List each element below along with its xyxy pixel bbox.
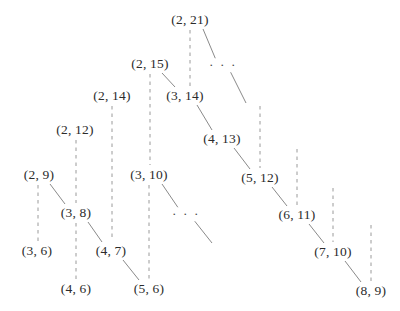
solid-edge (309, 224, 324, 243)
node-n4_6: (4, 6) (60, 282, 92, 296)
solid-edge (197, 105, 212, 130)
node-n8_9: (8, 9) (355, 284, 387, 298)
node-n4_13: (4, 13) (202, 132, 241, 146)
solid-edge (203, 29, 216, 60)
node-n5_6: (5, 6) (133, 282, 165, 296)
solid-edge (88, 222, 102, 242)
solid-edge (345, 261, 361, 282)
ellipsis-e_top: · · · (207, 58, 239, 72)
node-n2_12: (2, 12) (55, 123, 94, 137)
node-n3_8: (3, 8) (60, 206, 92, 220)
node-n5_12: (5, 12) (240, 171, 279, 185)
tree-diagram: (2, 21)(2, 15)(3, 14)(2, 14)(4, 13)(2, 1… (0, 0, 400, 311)
node-n4_7: (4, 7) (95, 244, 127, 258)
node-n3_6: (3, 6) (21, 244, 53, 258)
node-n6_11: (6, 11) (278, 208, 317, 222)
solid-edge (230, 71, 246, 103)
node-n2_14: (2, 14) (92, 89, 131, 103)
solid-edge (193, 219, 212, 243)
solid-edge (162, 73, 175, 87)
solid-edge (162, 184, 179, 209)
node-n3_10: (3, 10) (129, 168, 168, 182)
node-n3_14: (3, 14) (165, 89, 204, 103)
node-n2_9: (2, 9) (23, 168, 55, 182)
solid-edge (50, 184, 65, 204)
edge-layer (0, 0, 400, 311)
solid-edge (234, 148, 250, 169)
node-n2_21: (2, 21) (170, 13, 209, 27)
solid-edge (272, 187, 287, 206)
ellipsis-e_mid: · · · (170, 207, 202, 221)
node-n7_10: (7, 10) (313, 245, 352, 259)
node-n2_15: (2, 15) (130, 57, 169, 71)
solid-edge (123, 260, 139, 280)
